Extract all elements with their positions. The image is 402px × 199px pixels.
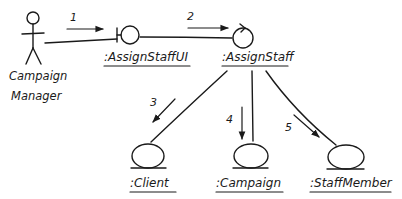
- link-control-staffmember: [266, 71, 336, 145]
- link-actor-ui: [45, 39, 117, 43]
- entity-icon: [327, 145, 364, 169]
- object-assignstaffui: :AssignStaffUI: [104, 26, 190, 66]
- link-control-client: [151, 71, 227, 142]
- message-number: 2: [187, 10, 194, 23]
- object-label: :StaffMember: [310, 176, 393, 190]
- object-label: :AssignStaff: [222, 50, 295, 64]
- message-3: 3: [150, 96, 175, 122]
- control-icon: [233, 24, 253, 48]
- message-1: 1: [67, 11, 103, 29]
- link-control-campaign: [252, 71, 253, 141]
- message-number: 3: [150, 96, 157, 109]
- object-label: :Campaign: [216, 176, 281, 190]
- message-2: 2: [187, 10, 228, 28]
- object-assignstaff: :AssignStaff: [222, 24, 295, 66]
- entity-icon: [233, 144, 268, 168]
- boundary-icon: [117, 26, 139, 44]
- link-ui-control: [140, 37, 232, 38]
- object-label: :AssignStaffUI: [104, 50, 188, 64]
- entity-icon: [131, 144, 166, 168]
- message-number: 1: [70, 11, 77, 24]
- object-staffmember: :StaffMember: [310, 145, 393, 192]
- message-4: 4: [226, 107, 242, 139]
- object-campaign: :Campaign: [216, 144, 283, 192]
- stick-figure-icon: [22, 12, 44, 64]
- message-number: 5: [285, 121, 292, 134]
- object-client: :Client: [130, 144, 176, 192]
- message-number: 4: [226, 113, 233, 126]
- communication-diagram: Campaign Manager 1 :AssignStaffUI 2 :Ass…: [0, 0, 402, 199]
- object-label: :Client: [130, 176, 170, 190]
- actor-name-line2: Manager: [11, 89, 63, 103]
- actor-name-line1: Campaign: [9, 69, 67, 83]
- actor-campaign-manager: Campaign Manager: [9, 12, 67, 103]
